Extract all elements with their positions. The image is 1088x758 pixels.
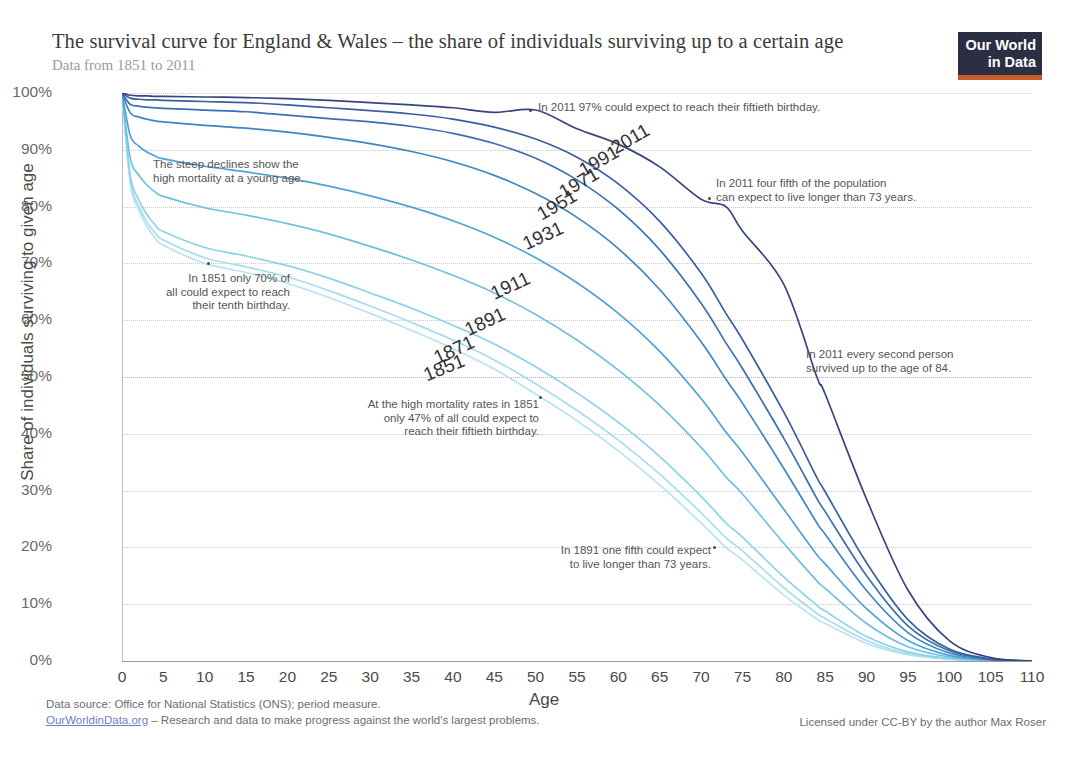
annotation-2011-four-fifth: In 2011 four fifth of the population can… — [716, 177, 946, 204]
y-tick-100: 100% — [0, 83, 52, 101]
x-tick-85: 85 — [805, 668, 845, 686]
logo-line-1: Our World — [962, 37, 1036, 54]
x-tick-50: 50 — [516, 668, 556, 686]
chart-header: The survival curve for England & Wales –… — [52, 28, 1052, 88]
x-tick-65: 65 — [640, 668, 680, 686]
x-tick-10: 10 — [185, 668, 225, 686]
logo-line-2: in Data — [962, 54, 1036, 71]
x-tick-90: 90 — [847, 668, 887, 686]
x-tick-95: 95 — [888, 668, 928, 686]
x-tick-5: 5 — [143, 668, 183, 686]
x-tick-15: 15 — [226, 668, 266, 686]
footer-tagline: – Research and data to make progress aga… — [148, 714, 539, 726]
x-tick-80: 80 — [764, 668, 804, 686]
x-tick-70: 70 — [681, 668, 721, 686]
data-source-text: Data source: Office for National Statist… — [46, 697, 1046, 712]
annotation-marker-2011-fiftieth — [529, 109, 532, 112]
x-axis-line — [122, 661, 1032, 662]
page-title: The survival curve for England & Wales –… — [52, 28, 1052, 54]
annotation-marker-1851-fiftieth — [539, 396, 542, 399]
logo-accent-bar — [958, 75, 1042, 80]
x-tick-100: 100 — [929, 668, 969, 686]
x-tick-25: 25 — [309, 668, 349, 686]
x-tick-60: 60 — [598, 668, 638, 686]
annotation-2011-age-84: In 2011 every second person survived up … — [806, 348, 1016, 375]
annotation-marker-1891-one-fifth — [713, 546, 716, 549]
x-tick-0: 0 — [102, 668, 142, 686]
annotation-steep-declines: The steep declines show the high mortali… — [153, 158, 353, 185]
page-subtitle: Data from 1851 to 2011 — [52, 56, 1052, 74]
chart-page: The survival curve for England & Wales –… — [0, 0, 1088, 758]
y-axis-label: Share of individuals surviving to given … — [18, 112, 38, 532]
x-tick-55: 55 — [557, 668, 597, 686]
x-tick-20: 20 — [267, 668, 307, 686]
annotation-marker-1851-tenth — [207, 262, 210, 265]
x-tick-30: 30 — [350, 668, 390, 686]
our-world-in-data-logo[interactable]: Our World in Data — [958, 32, 1042, 80]
annotation-marker-2011-four-fifth — [708, 197, 711, 200]
annotation-2011-fiftieth-birthday: In 2011 97% could expect to reach their … — [538, 101, 858, 115]
x-tick-35: 35 — [392, 668, 432, 686]
y-tick-0: 0% — [0, 651, 52, 669]
y-tick-20: 20% — [0, 537, 52, 555]
y-tick-10: 10% — [0, 594, 52, 612]
annotation-1891-one-fifth: In 1891 one fifth could expect to live l… — [543, 544, 711, 571]
license-text: Licensed under CC-BY by the author Max R… — [700, 716, 1046, 728]
x-tick-40: 40 — [433, 668, 473, 686]
x-tick-45: 45 — [474, 668, 514, 686]
x-tick-75: 75 — [722, 668, 762, 686]
annotation-1851-tenth-birthday: In 1851 only 70% of all could expect to … — [140, 272, 290, 313]
x-tick-105: 105 — [971, 668, 1011, 686]
owid-link[interactable]: OurWorldinData.org — [46, 714, 148, 726]
x-tick-110: 110 — [1012, 668, 1052, 686]
annotation-1851-fiftieth-birthday: At the high mortality rates in 1851 only… — [344, 398, 539, 439]
